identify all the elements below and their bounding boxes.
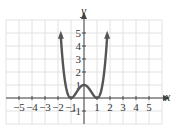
x-tick-label: −2: [52, 101, 64, 113]
x-tick-label: −3: [39, 101, 51, 113]
y-tick-label: 2: [76, 66, 82, 78]
chart: −5−4−3−2−112345−112345 x y: [0, 0, 176, 131]
x-tick-label: 2: [107, 101, 113, 113]
y-tick-label: 3: [76, 53, 82, 65]
y-axis-label: y: [80, 4, 87, 18]
x-tick-label: 1: [94, 101, 100, 113]
x-axis-label: x: [164, 90, 171, 104]
x-tick-label: 4: [133, 101, 139, 113]
x-tick-label: 3: [120, 101, 126, 113]
x-tick-label: 5: [146, 101, 152, 113]
y-tick-label: −1: [69, 105, 81, 117]
x-tick-label: −5: [13, 101, 25, 113]
y-tick-label: 5: [76, 27, 82, 39]
y-tick-label: 4: [76, 40, 82, 52]
x-tick-label: −4: [26, 101, 38, 113]
